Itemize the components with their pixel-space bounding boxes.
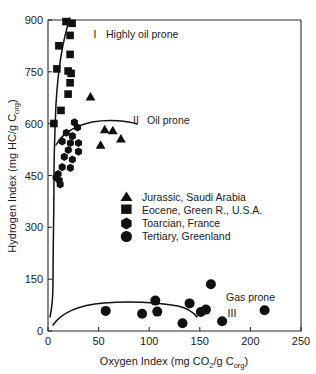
x-axis-title-mid: /g C (213, 355, 233, 367)
region-label-highly-oil-prone: Highly oil prone (106, 28, 179, 40)
data-point-square (66, 51, 74, 59)
region-annotation-III: Gas prone III (226, 291, 275, 319)
data-point-circle (217, 316, 227, 326)
legend-triangle-icon (121, 192, 133, 202)
series-tertiary-greenland-markers (101, 279, 270, 328)
svg-text:Hydrogen Index (mg HC/g Corg): Hydrogen Index (mg HC/g Corg) (6, 99, 21, 252)
data-point-circle (101, 306, 111, 316)
data-point-hexagon (67, 139, 74, 147)
x-axis-ticks (48, 327, 301, 331)
x-tick-label: 0 (45, 335, 51, 347)
x-tick-label: 250 (292, 335, 310, 347)
region-numeral-III: III (228, 307, 237, 319)
data-point-square (53, 65, 61, 73)
legend-hexagon-icon (121, 218, 131, 230)
data-point-circle (178, 318, 188, 328)
region-annotation-II: II Oil prone (133, 114, 190, 126)
type-III-pathway-curve (53, 302, 197, 325)
legend-square-icon (121, 205, 131, 214)
legend-item-eocene: Eocene, Green R., U.S.A. (121, 204, 262, 216)
x-axis-tick-labels: 0 50 100 150 200 250 (45, 335, 310, 347)
data-point-circle (206, 279, 216, 289)
y-tick-label: 150 (25, 273, 43, 285)
data-point-circle (260, 305, 270, 315)
legend-label-jurassic: Jurassic, Saudi Arabia (142, 191, 246, 203)
series-toarcian-france-markers (53, 118, 82, 188)
y-axis-title-sub-org: org (12, 103, 21, 114)
legend-item-toarcian: Toarcian, France (121, 217, 220, 230)
data-point-circle (150, 296, 160, 306)
data-point-hexagon (75, 139, 82, 147)
y-tick-label: 900 (25, 14, 43, 26)
data-point-triangle (96, 140, 106, 149)
data-point-hexagon (67, 164, 74, 172)
data-point-triangle (86, 92, 96, 101)
y-axis-tick-labels: 0 150 300 450 600 750 900 (25, 14, 43, 337)
data-point-hexagon (69, 156, 76, 164)
region-label-oil-prone: Oil prone (147, 114, 190, 126)
x-axis-title: Oxygen Index (mg CO2/g Corg) (100, 355, 248, 370)
x-axis-title-end: ) (244, 355, 248, 367)
van-krevelen-scatter-plot: 0 150 300 450 600 750 900 0 50 100 150 2… (0, 0, 316, 374)
legend-circle-icon (121, 231, 132, 242)
chart-legend: Jurassic, Saudi Arabia Eocene, Green R.,… (121, 191, 263, 242)
data-point-hexagon (65, 146, 72, 154)
data-point-square (55, 42, 63, 50)
x-axis-title-main: Oxygen Index (mg CO (100, 355, 210, 367)
data-point-triangle (100, 125, 110, 134)
y-axis-title-end: ) (6, 99, 18, 103)
y-tick-label: 0 (37, 325, 43, 337)
legend-label-eocene: Eocene, Green R., U.S.A. (142, 204, 262, 216)
data-point-square (66, 32, 74, 40)
data-point-hexagon (69, 132, 76, 140)
data-point-square (50, 120, 58, 128)
legend-item-tertiary: Tertiary, Greenland (121, 230, 231, 242)
data-point-circle (152, 307, 162, 317)
x-tick-label: 150 (191, 335, 209, 347)
x-tick-label: 100 (140, 335, 158, 347)
region-numeral-I: I (94, 28, 97, 40)
data-point-circle (201, 305, 211, 315)
x-tick-label: 200 (241, 335, 259, 347)
y-tick-label: 600 (25, 118, 43, 130)
y-tick-label: 300 (25, 221, 43, 233)
data-point-circle (137, 309, 147, 319)
data-point-triangle (116, 134, 126, 143)
y-axis-ticks (48, 20, 52, 331)
x-tick-label: 50 (92, 335, 104, 347)
svg-text:Oxygen Index (mg CO2/g Corg): Oxygen Index (mg CO2/g Corg) (100, 355, 248, 370)
y-tick-label: 750 (25, 66, 43, 78)
plot-frame (48, 20, 301, 331)
y-tick-label: 450 (25, 170, 43, 182)
data-point-triangle (108, 126, 118, 135)
region-annotation-I: I Highly oil prone (94, 28, 179, 40)
region-numeral-II: II (133, 114, 139, 126)
data-point-square (64, 90, 72, 98)
legend-label-toarcian: Toarcian, France (142, 217, 220, 229)
region-label-gas-prone: Gas prone (226, 291, 275, 303)
x-axis-title-sub-org: org (234, 361, 245, 370)
y-axis-title: Hydrogen Index (mg HC/g Corg) (6, 99, 21, 252)
data-point-hexagon (61, 153, 68, 161)
legend-item-jurassic: Jurassic, Saudi Arabia (121, 191, 247, 203)
data-point-hexagon (75, 148, 82, 156)
data-point-square (67, 70, 75, 78)
data-point-circle (185, 298, 195, 308)
kerogen-pathways (50, 18, 197, 325)
data-point-square (68, 20, 76, 28)
legend-label-tertiary: Tertiary, Greenland (142, 230, 231, 242)
data-point-square (66, 79, 74, 87)
series-eocene-green-river-markers (50, 18, 76, 128)
chart-figure: 0 150 300 450 600 750 900 0 50 100 150 2… (0, 0, 316, 374)
y-axis-title-main: Hydrogen Index (mg HC/g C (6, 114, 18, 253)
data-point-hexagon (59, 163, 66, 171)
data-point-square (57, 107, 65, 115)
